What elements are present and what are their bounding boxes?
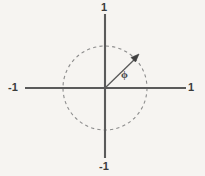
unit-circle-canvas [0,0,205,176]
unit-circle-figure: 1 -1 1 -1 ϕ [0,0,205,176]
axis-label-x-max: 1 [188,82,194,93]
axis-label-y-max: 1 [101,2,107,13]
angle-label-phi: ϕ [121,69,128,80]
axis-label-x-min: -1 [8,82,18,93]
axis-label-y-min: -1 [99,161,109,172]
